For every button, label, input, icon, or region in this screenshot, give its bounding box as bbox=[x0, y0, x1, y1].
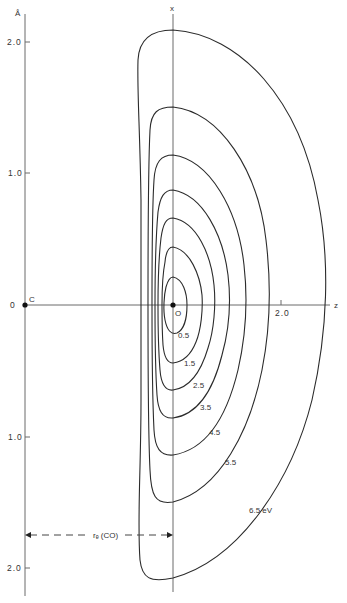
contour-label-0-5: 0.5 bbox=[178, 331, 190, 340]
z-axis-label: z bbox=[334, 301, 338, 310]
tick-label-1-0-top: 1.0 bbox=[8, 168, 23, 178]
contour-label-2-5: 2.5 bbox=[193, 381, 205, 390]
tick-label-2-0-top: 2.0 bbox=[7, 37, 22, 47]
tick-label-1-0-bottom: 1.0 bbox=[8, 432, 23, 442]
carbon-label: C bbox=[29, 295, 35, 304]
contour-label-4-5: 4.5 bbox=[209, 428, 221, 437]
contour-label-1-5: 1.5 bbox=[184, 359, 196, 368]
contour-label-5-5: 5.5 bbox=[225, 458, 237, 467]
arrowhead-right-icon bbox=[167, 532, 173, 538]
tick-label-2-0-bottom: 2.0 bbox=[7, 563, 22, 573]
carbon-atom-point bbox=[22, 302, 27, 307]
tick-label-0: 0 bbox=[10, 300, 16, 310]
z-tick-label: 2.0 bbox=[275, 308, 290, 318]
oxygen-label: O bbox=[175, 309, 181, 318]
contour-label-3-5: 3.5 bbox=[200, 403, 212, 412]
bond-length-label: rₑ (CO) bbox=[93, 531, 119, 540]
arrowhead-left-icon bbox=[25, 532, 31, 538]
unit-label: Å bbox=[15, 9, 21, 18]
x-axis-label: x bbox=[170, 4, 174, 13]
contour-diagram: Å 2.0 1.0 0 1.0 2.0 2.0 z x 0.5 1.5 2.5 … bbox=[0, 0, 347, 603]
oxygen-atom-point bbox=[170, 302, 175, 307]
contour-label-6-5: 6.5 eV bbox=[249, 506, 273, 515]
